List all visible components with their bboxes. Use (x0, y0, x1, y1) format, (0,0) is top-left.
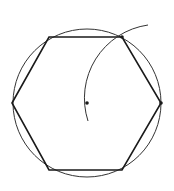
center-point (85, 101, 89, 105)
top-right-vertex-point (120, 35, 124, 39)
compass-arc (84, 25, 148, 121)
hexagon-construction-diagram (0, 0, 174, 191)
right-vertex-point (159, 101, 163, 105)
marked-points (85, 35, 163, 105)
